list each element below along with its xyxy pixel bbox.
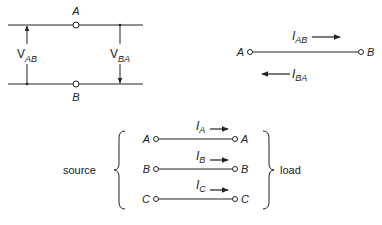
terminal-b-icon [359,50,364,55]
terminal-icon [154,137,159,142]
source-brace-icon [114,131,125,209]
node-a-label: A [71,5,79,17]
terminal-a-icon [73,22,79,28]
current-diagram: A B IAB IBA [236,29,375,83]
phase-line-c: C C IC [142,178,249,205]
ic-label: IC [196,178,206,194]
diagram-canvas: A B VAB VBA A B IAB IBA source load A [0,0,382,225]
node-b-label: B [367,46,374,58]
load-node-label: C [241,193,249,205]
voltage-diagram: A B VAB VBA [8,5,143,103]
load-brace-icon [263,131,274,209]
terminal-icon [233,137,238,142]
terminal-a-icon [248,50,253,55]
load-node-label: B [241,163,248,175]
source-node-label: A [142,133,150,145]
terminal-icon [154,197,159,202]
source-label: source [63,164,96,176]
terminal-b-icon [73,81,79,87]
load-label: load [280,164,301,176]
terminal-icon [233,167,238,172]
phase-line-a: A A IA [142,119,249,145]
source-node-label: B [143,163,150,175]
source-node-label: C [142,193,150,205]
iab-label: IAB [292,29,307,45]
ia-label: IA [196,119,205,135]
three-phase-diagram: source load A A IA B B IB C [63,119,301,209]
phase-line-b: B B IB [143,149,249,175]
node-b-label: B [72,91,79,103]
iba-label: IBA [292,67,307,83]
load-node-label: A [240,133,248,145]
node-a-label: A [236,46,244,58]
terminal-icon [233,197,238,202]
ib-label: IB [196,149,205,165]
terminal-icon [154,167,159,172]
